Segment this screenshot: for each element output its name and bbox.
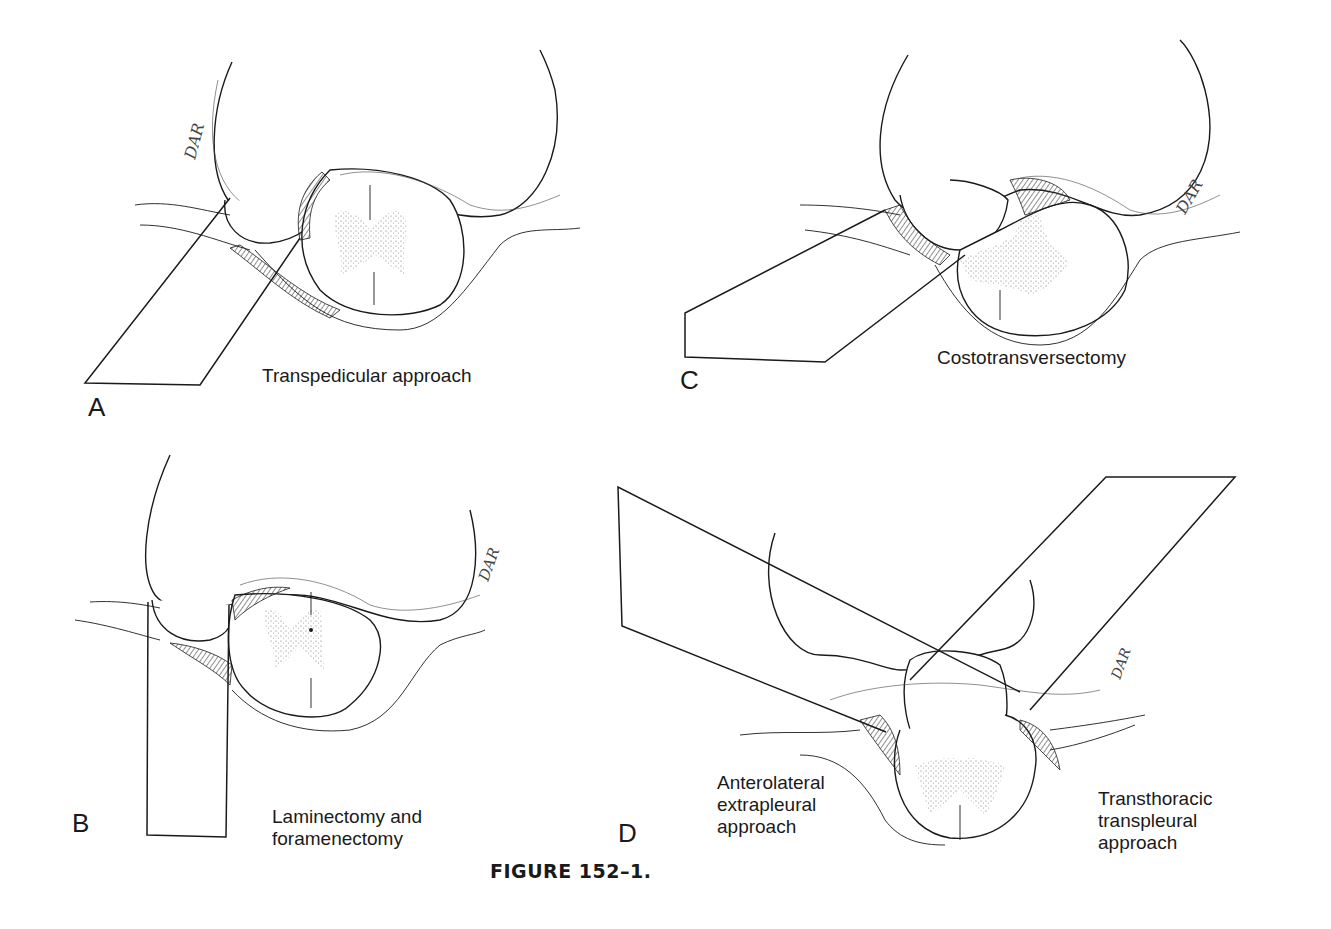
panel-letter-b: B <box>72 808 89 839</box>
panel-b-illustration: DAR <box>0 430 600 860</box>
central-canal <box>309 628 313 632</box>
panel-a-label: Transpedicular approach <box>262 365 471 387</box>
panel-b-label-line: foramenectomy <box>272 828 422 850</box>
panel-d: DAR D Anterolateral extrapleural approac… <box>600 430 1331 860</box>
dural-sac <box>228 594 380 717</box>
rib-right <box>1050 715 1145 730</box>
panel-d-label-right: Transthoracic transpleural approach <box>1098 788 1212 854</box>
artist-signature: DAR <box>180 121 208 162</box>
rib-upper <box>90 602 160 608</box>
panel-d-label-line: transpleural <box>1098 810 1212 832</box>
panel-d-label-line: Anterolateral <box>717 772 825 794</box>
panel-c-label: Costotransversectomy <box>937 347 1126 369</box>
panel-d-illustration: DAR <box>600 430 1331 860</box>
panel-a-label-line: Transpedicular approach <box>262 365 471 387</box>
panel-d-label-line: approach <box>1098 832 1212 854</box>
panel-b: DAR B Laminectomy and foramenectomy <box>0 430 600 860</box>
panel-c-label-line: Costotransversectomy <box>937 347 1126 369</box>
panel-a: DAR A Transpedicular approach <box>0 0 660 430</box>
figure-caption: FIGURE 152–1. <box>490 860 651 882</box>
artist-signature: DAR <box>1107 645 1133 682</box>
pedicle <box>152 600 233 641</box>
ligament-hatching-lower <box>170 643 232 685</box>
panel-d-label-line: Transthoracic <box>1098 788 1212 810</box>
panel-d-label-left: Anterolateral extrapleural approach <box>717 772 825 838</box>
panel-letter-d: D <box>618 818 637 849</box>
panel-d-label-line: extrapleural <box>717 794 825 816</box>
vertebral-body <box>769 533 1034 670</box>
rib-left <box>740 730 860 735</box>
artist-signature: DAR <box>475 545 504 584</box>
panel-d-label-line: approach <box>717 816 825 838</box>
rib-upper <box>135 204 230 215</box>
panel-c: DAR C Costotransversectomy <box>660 0 1331 430</box>
panel-letter-a: A <box>88 392 105 423</box>
panel-b-label: Laminectomy and foramenectomy <box>272 806 422 850</box>
panel-b-label-line: Laminectomy and <box>272 806 422 828</box>
panel-letter-c: C <box>680 365 699 396</box>
